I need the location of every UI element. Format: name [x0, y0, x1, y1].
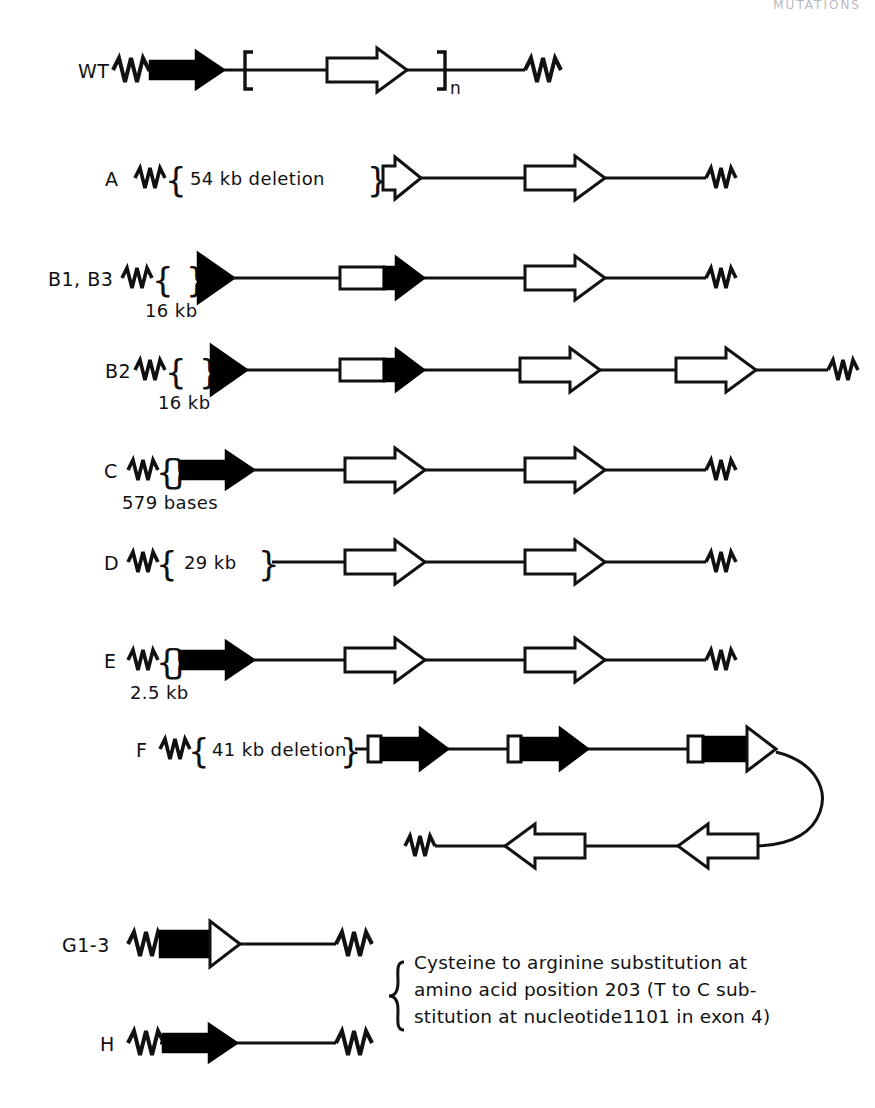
row-g13: G1-3: [62, 921, 372, 967]
squiggle-5prime: [122, 268, 152, 288]
row-label-f: F: [136, 739, 147, 761]
row-f-lower: [405, 824, 758, 868]
annotation-line-2: amino acid position 203 (T to C sub-: [414, 979, 757, 1000]
squiggle-3prime: [706, 268, 736, 288]
open-arrow-1: [520, 348, 600, 392]
deletion-size-d: 29 kb: [184, 552, 236, 573]
squiggle-3prime: [706, 168, 736, 188]
hybrid-arrow: [340, 349, 424, 391]
substitution-annotation: Cysteine to arginine substitution at ami…: [389, 952, 770, 1030]
truncated-black-arrowhead: [211, 345, 247, 395]
repeat-subscript: n: [450, 78, 461, 98]
squiggle-5prime: [135, 360, 165, 380]
deletion-brace-close: }: [340, 731, 362, 771]
row-label-wt: WT: [78, 60, 109, 82]
squiggle-5prime: [128, 460, 158, 480]
boxtail-black-arrow-2: [508, 728, 588, 770]
row-a: A { 54 kb deletion }: [105, 156, 736, 200]
row-f-upper: F { 41 kb deletion }: [136, 727, 822, 846]
row-h: H: [100, 1024, 372, 1062]
row-e: E { } 2.5 kb: [104, 638, 736, 703]
hybrid-arrow: [340, 257, 424, 299]
truncated-open-arrow: [383, 157, 421, 199]
row-label-b2: B2: [105, 360, 131, 382]
cut-off-header-text: MUTATIONS: [773, 0, 861, 11]
inversion-loop: [756, 752, 822, 846]
open-arrow: [525, 256, 605, 300]
figure-canvas: WT n A { 54 kb deletion }: [0, 0, 875, 1108]
deletion-brace-open: {: [152, 260, 174, 300]
squiggle-3prime: [336, 932, 372, 956]
squiggle-3prime: [706, 650, 736, 670]
black-arrow: [163, 1024, 237, 1062]
open-arrow-2: [525, 540, 605, 584]
deletion-brace-open: {: [165, 160, 187, 200]
boxtail-openhead-arrow: [688, 727, 776, 771]
row-label-h: H: [100, 1033, 115, 1055]
boxtail-black-arrow-1: [368, 728, 448, 770]
deletion-brace-open: {: [188, 731, 210, 771]
deletion-size-f: 41 kb deletion: [212, 739, 347, 760]
annotation-brace: [389, 962, 404, 1030]
row-b1b3: B1, B3 { } 16 kb: [48, 253, 736, 321]
squiggle-5prime: [128, 650, 158, 670]
squiggle-3prime: [706, 552, 736, 572]
squiggle-3prime: [525, 58, 561, 82]
black-arrow: [150, 51, 224, 89]
deletion-size-c: 579 bases: [122, 492, 218, 513]
open-arrow-2: [676, 348, 756, 392]
row-label-b1b3: B1, B3: [48, 268, 113, 290]
deletion-brace-open: {: [165, 352, 187, 392]
squiggle-5prime: [135, 168, 165, 188]
open-arrow-left-2: [678, 824, 758, 868]
truncated-black-arrowhead: [198, 253, 234, 303]
open-arrow-2: [525, 448, 605, 492]
deletion-size-b1b3: 16 kb: [145, 300, 197, 321]
row-wt: WT n: [78, 48, 561, 98]
squiggle-3prime: [706, 460, 736, 480]
row-d: D { 29 kb }: [104, 540, 736, 584]
black-arrow: [180, 641, 254, 679]
deletion-brace-close: }: [258, 544, 280, 584]
annotation-line-1: Cysteine to arginine substitution at: [414, 952, 747, 973]
squiggle-5prime: [160, 739, 190, 759]
row-b2: B2 { } 16 kb: [105, 345, 858, 413]
squiggle-5prime: [128, 552, 158, 572]
row-c: C { } 579 bases: [104, 448, 736, 513]
squiggle-3prime: [336, 1031, 372, 1055]
squiggle-terminus: [405, 836, 435, 856]
row-label-c: C: [104, 460, 118, 482]
open-arrow-1: [345, 638, 425, 682]
squiggle-5prime: [113, 58, 149, 82]
gene-rearrangement-figure: MUTATIONS: [0, 0, 875, 1108]
squiggle-5prime: [128, 932, 164, 956]
open-arrow-2: [525, 638, 605, 682]
squiggle-5prime: [128, 1031, 164, 1055]
row-label-a: A: [105, 168, 119, 190]
black-arrow: [180, 451, 254, 489]
deletion-size-e: 2.5 kb: [130, 682, 189, 703]
squiggle-3prime: [828, 360, 858, 380]
row-label-g13: G1-3: [62, 934, 110, 956]
row-label-e: E: [104, 650, 117, 672]
solidbody-openhead-arrow: [160, 921, 240, 967]
annotation-line-3: stitution at nucleotide1101 in exon 4): [414, 1006, 770, 1027]
deletion-brace-open: {: [156, 544, 178, 584]
open-arrow-1: [345, 448, 425, 492]
deletion-size-b2: 16 kb: [158, 392, 210, 413]
open-arrow-1: [345, 540, 425, 584]
open-arrow-left-1: [505, 824, 585, 868]
open-arrow: [327, 48, 407, 92]
deletion-size-a: 54 kb deletion: [190, 168, 325, 189]
row-label-d: D: [104, 552, 119, 574]
open-arrow: [525, 156, 605, 200]
